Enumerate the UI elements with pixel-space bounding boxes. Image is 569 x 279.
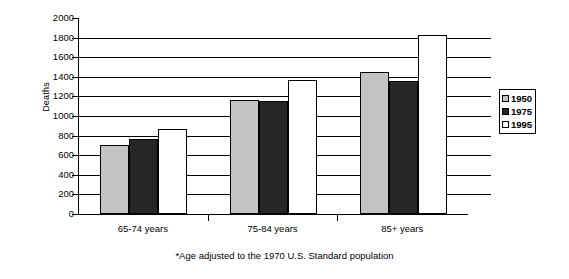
- bar-1950-65-74-years: [100, 145, 129, 214]
- legend: 195019751995: [499, 89, 536, 134]
- bar-1995-85-years: [418, 35, 447, 214]
- x-axis-tick-label: 65-74 years: [83, 223, 203, 234]
- legend-item-1975: 1975: [502, 105, 532, 118]
- y-axis-tick-label: 1800: [28, 33, 74, 43]
- y-axis-tick-label: 600: [28, 150, 74, 160]
- y-axis-tick-label: 200: [28, 189, 74, 199]
- bar-1995-75-84-years: [288, 80, 317, 214]
- legend-swatch-icon: [502, 95, 509, 102]
- x-axis-tick-label: 75-84 years: [213, 223, 333, 234]
- legend-item-label: 1975: [511, 106, 532, 117]
- x-axis-tick-mark: [208, 214, 209, 221]
- y-axis-tick-label: 1400: [28, 72, 74, 82]
- bar-1950-75-84-years: [230, 100, 259, 214]
- y-axis-tick-label: 2000: [28, 13, 74, 23]
- bar-1975-65-74-years: [129, 139, 158, 214]
- y-axis-tick-label: 400: [28, 170, 74, 180]
- x-axis-tick-label: 85+ years: [342, 223, 462, 234]
- legend-item-1950: 1950: [502, 92, 532, 105]
- y-axis-tick-label: 1600: [28, 52, 74, 62]
- y-axis-tick-label: 0: [28, 209, 74, 219]
- y-axis-tick-label: 1000: [28, 111, 74, 121]
- x-axis-tick-mark: [337, 214, 338, 221]
- legend-item-1995: 1995: [502, 118, 532, 131]
- bar-1950-85-years: [360, 72, 389, 214]
- y-axis-tick-label: 1200: [28, 91, 74, 101]
- plot-area: [78, 18, 468, 215]
- chart-footnote: *Age adjusted to the 1970 U.S. Standard …: [0, 250, 569, 261]
- bar-1975-75-84-years: [259, 101, 288, 214]
- y-axis-tick-label: 800: [28, 131, 74, 141]
- bar-1995-65-74-years: [158, 129, 187, 214]
- bar-1975-85-years: [389, 81, 418, 214]
- bar-chart-figure: Deaths 200018001600140012001000800600400…: [0, 0, 569, 279]
- legend-swatch-icon: [502, 108, 509, 115]
- legend-swatch-icon: [502, 121, 509, 128]
- legend-item-label: 1995: [511, 119, 532, 130]
- legend-item-label: 1950: [511, 93, 532, 104]
